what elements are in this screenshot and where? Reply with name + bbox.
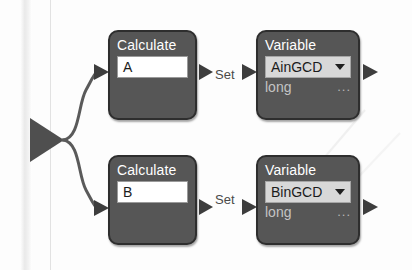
flow-start-triangle-icon[interactable] <box>30 118 64 162</box>
flow-diagram-canvas: Calculate A Set Variable AinGCD long ...… <box>0 0 412 270</box>
variable-type-row-b: long ... <box>265 204 351 220</box>
variable-block-a[interactable]: Variable AinGCD long ... <box>256 30 360 120</box>
variable-type-row-a: long ... <box>265 79 351 95</box>
arrow-right-icon-variable-b-input <box>242 199 257 215</box>
expression-input-a[interactable]: A <box>117 56 188 78</box>
variable-block-b[interactable]: Variable BinGCD long ... <box>256 155 360 245</box>
arrow-right-icon-calculate-a-input <box>94 64 109 80</box>
calculate-block-b[interactable]: Calculate B <box>108 155 197 245</box>
arrow-right-icon-variable-a-input <box>242 64 257 80</box>
arrow-right-icon-calculate-b-output <box>199 199 213 215</box>
chevron-down-icon[interactable] <box>335 64 345 70</box>
more-options-ellipsis-icon[interactable]: ... <box>337 79 351 95</box>
calculate-block-a[interactable]: Calculate A <box>108 30 197 120</box>
variable-type-label: long <box>265 204 337 220</box>
arrow-right-icon-variable-a-output <box>363 64 378 80</box>
block-title: Calculate <box>117 37 188 53</box>
wire-to-calculate-a <box>63 72 97 140</box>
expression-input-b[interactable]: B <box>117 181 188 203</box>
chevron-down-icon[interactable] <box>335 189 345 195</box>
variable-type-label: long <box>265 79 337 95</box>
variable-select-a[interactable]: AinGCD <box>265 56 351 78</box>
variable-select-value: AinGCD <box>271 57 331 78</box>
more-options-ellipsis-icon[interactable]: ... <box>337 204 351 220</box>
connector-label-set-b: Set <box>215 193 235 207</box>
arrow-right-icon-calculate-a-output <box>199 64 213 80</box>
block-title: Variable <box>265 37 351 53</box>
wire-to-calculate-b <box>63 140 97 208</box>
connector-label-set-a: Set <box>215 68 235 82</box>
arrow-right-icon-calculate-b-input <box>94 200 109 216</box>
arrow-right-icon-variable-b-output <box>363 199 378 215</box>
variable-select-b[interactable]: BinGCD <box>265 181 351 203</box>
block-title: Calculate <box>117 162 188 178</box>
variable-select-value: BinGCD <box>271 182 331 203</box>
block-title: Variable <box>265 162 351 178</box>
